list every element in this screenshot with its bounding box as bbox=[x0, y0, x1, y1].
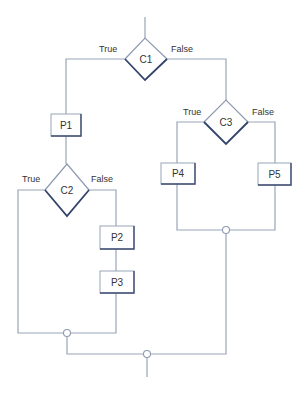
c3-true-label: True bbox=[183, 107, 201, 117]
edge-p3-join bbox=[71, 293, 117, 333]
process-p3-label: P3 bbox=[111, 277, 124, 288]
decision-c3: C3 bbox=[204, 100, 248, 144]
decision-c2-label: C2 bbox=[61, 185, 74, 196]
process-p2: P2 bbox=[100, 226, 134, 249]
edge-c1-false bbox=[167, 59, 226, 100]
edge-c1-true bbox=[66, 59, 125, 114]
c2-true-label: True bbox=[22, 174, 40, 184]
decision-c3-label: C3 bbox=[220, 117, 233, 128]
decision-c2: C2 bbox=[45, 164, 89, 216]
process-p2-label: P2 bbox=[111, 232, 124, 243]
join-c1-node bbox=[144, 351, 151, 358]
edge-c2-false bbox=[89, 190, 116, 226]
process-p1: P1 bbox=[51, 114, 81, 136]
process-p5-label: P5 bbox=[268, 169, 281, 180]
process-p4: P4 bbox=[161, 163, 195, 184]
flowchart: C1 True False P1 C2 True False P2 P3 C3 … bbox=[0, 0, 305, 399]
c3-false-label: False bbox=[252, 107, 274, 117]
edge-join-c2-bottom bbox=[67, 337, 144, 355]
c2-false-label: False bbox=[91, 174, 113, 184]
join-c3-node bbox=[223, 227, 230, 234]
edge-p4-join bbox=[177, 184, 223, 230]
c1-true-label: True bbox=[99, 44, 117, 54]
decision-c1-label: C1 bbox=[140, 54, 153, 65]
process-p1-label: P1 bbox=[60, 120, 73, 131]
edge-c2-true bbox=[18, 190, 64, 333]
process-p5: P5 bbox=[258, 163, 291, 185]
edge-c3-true bbox=[177, 122, 204, 163]
edge-c3-false bbox=[248, 122, 275, 163]
edge-join-c3-bottom bbox=[151, 234, 227, 355]
decision-c1: C1 bbox=[125, 38, 167, 80]
process-p4-label: P4 bbox=[172, 168, 185, 179]
edge-p5-join bbox=[230, 185, 276, 230]
process-p3: P3 bbox=[100, 271, 134, 293]
join-c2-node bbox=[64, 330, 71, 337]
c1-false-label: False bbox=[171, 44, 193, 54]
